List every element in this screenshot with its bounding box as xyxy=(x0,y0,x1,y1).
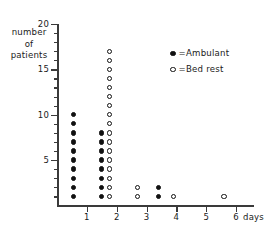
data-point-bed-rest xyxy=(107,121,112,126)
x-tick xyxy=(117,206,118,212)
data-point-bed-rest xyxy=(107,112,112,117)
data-point-ambulant xyxy=(71,148,76,153)
y-tick-major xyxy=(51,24,57,25)
data-point-bed-rest xyxy=(107,130,112,135)
y-tick-minor xyxy=(54,42,58,43)
y-axis-title-line-2: of xyxy=(6,39,52,51)
legend-equals-sign-2: = xyxy=(179,63,186,75)
data-point-ambulant xyxy=(71,157,76,162)
y-axis-title: number of patients xyxy=(6,27,52,62)
y-tick-minor xyxy=(54,187,58,188)
y-tick-minor xyxy=(54,60,58,61)
x-tick-label: 2 xyxy=(102,213,132,222)
y-tick-label: 20 xyxy=(7,20,49,29)
open-circle-icon xyxy=(170,67,176,73)
y-tick-minor xyxy=(54,78,58,79)
data-point-ambulant xyxy=(71,130,76,135)
x-tick xyxy=(87,206,88,212)
data-point-ambulant xyxy=(99,139,104,144)
data-point-bed-rest xyxy=(107,58,112,63)
y-tick-minor xyxy=(54,51,58,52)
data-point-bed-rest xyxy=(107,176,112,181)
x-tick xyxy=(206,206,207,212)
data-point-ambulant xyxy=(71,185,76,190)
y-tick-major xyxy=(51,115,57,116)
y-tick-label: 10 xyxy=(7,111,49,120)
data-point-ambulant xyxy=(71,139,76,144)
y-tick-minor xyxy=(54,97,58,98)
data-point-bed-rest xyxy=(135,185,140,190)
data-point-bed-rest xyxy=(107,76,112,81)
data-point-ambulant xyxy=(99,148,104,153)
data-point-ambulant xyxy=(71,166,76,171)
data-point-ambulant xyxy=(71,176,76,181)
data-point-bed-rest xyxy=(107,94,112,99)
x-tick xyxy=(147,206,148,212)
y-axis-title-line-3: patients xyxy=(6,50,52,62)
x-tick xyxy=(236,206,237,212)
data-point-bed-rest xyxy=(107,85,112,90)
x-tick-label: 4 xyxy=(161,213,191,222)
data-point-bed-rest xyxy=(107,166,112,171)
x-tick-label: 5 xyxy=(191,213,221,222)
data-point-ambulant xyxy=(71,112,76,117)
data-point-bed-rest xyxy=(107,49,112,54)
y-tick-major xyxy=(51,160,57,161)
y-tick-minor xyxy=(54,124,58,125)
data-point-bed-rest xyxy=(171,194,176,199)
data-point-bed-rest xyxy=(107,194,112,199)
data-point-ambulant xyxy=(99,130,104,135)
data-point-ambulant xyxy=(156,185,161,190)
data-point-bed-rest xyxy=(221,194,226,199)
y-tick-minor xyxy=(54,178,58,179)
y-tick-label: 5 xyxy=(7,156,49,165)
data-point-bed-rest xyxy=(107,139,112,144)
scatter-chart: number of patients 5101520123456 days = … xyxy=(0,0,266,238)
data-point-ambulant xyxy=(99,166,104,171)
y-tick-minor xyxy=(54,151,58,152)
data-point-ambulant xyxy=(71,121,76,126)
data-point-ambulant xyxy=(71,194,76,199)
y-tick-minor xyxy=(54,87,58,88)
data-point-bed-rest xyxy=(107,185,112,190)
y-axis-line xyxy=(57,24,59,206)
filled-circle-icon xyxy=(170,51,176,57)
data-point-bed-rest xyxy=(135,194,140,199)
data-point-bed-rest xyxy=(107,148,112,153)
data-point-bed-rest xyxy=(107,103,112,108)
y-tick-minor xyxy=(54,196,58,197)
y-tick-minor xyxy=(54,142,58,143)
y-tick-minor xyxy=(54,169,58,170)
legend-label-ambulant: Ambulant xyxy=(186,47,229,59)
legend-equals-sign-1: = xyxy=(179,47,186,59)
x-tick-label: 1 xyxy=(72,213,102,222)
y-tick-minor xyxy=(54,33,58,34)
y-tick-minor xyxy=(54,133,58,134)
x-tick-label: 3 xyxy=(132,213,162,222)
data-point-ambulant xyxy=(99,176,104,181)
y-tick-major xyxy=(51,69,57,70)
data-point-bed-rest xyxy=(107,157,112,162)
data-point-ambulant xyxy=(99,185,104,190)
data-point-bed-rest xyxy=(107,67,112,72)
y-tick-label: 15 xyxy=(7,65,49,74)
x-axis-unit-label: days xyxy=(243,213,264,222)
y-tick-minor xyxy=(54,106,58,107)
x-tick xyxy=(176,206,177,212)
data-point-ambulant xyxy=(99,157,104,162)
data-point-ambulant xyxy=(99,194,104,199)
data-point-ambulant xyxy=(156,194,161,199)
legend-label-bed-rest: Bed rest xyxy=(186,63,223,75)
